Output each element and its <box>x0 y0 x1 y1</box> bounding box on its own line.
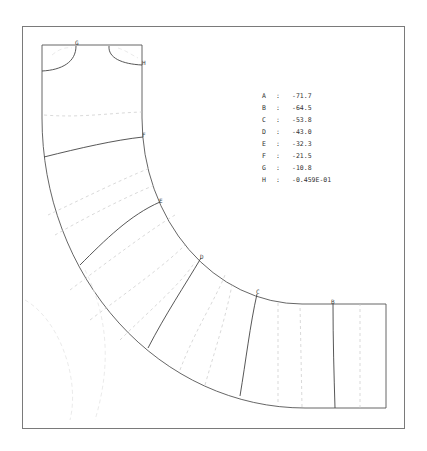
label-b: B <box>331 298 335 305</box>
legend-row: E:-32.3 <box>262 138 331 150</box>
contour-e <box>80 202 160 265</box>
legend-row: G:-10.8 <box>262 162 331 174</box>
legend-row: C:-53.8 <box>262 114 331 126</box>
legend-row: B:-64.5 <box>262 102 331 114</box>
legend-row: A:-71.7 <box>262 90 331 102</box>
contour-d <box>148 258 201 348</box>
label-e: E <box>159 197 163 204</box>
contour-plot: G H F E D C B <box>0 0 427 451</box>
legend-row: H:-0.459E-01 <box>262 174 331 186</box>
legend-row: F:-21.5 <box>262 150 331 162</box>
contour-legend: A:-71.7 B:-64.5 C:-53.8 D:-43.0 E:-32.3 … <box>262 90 331 186</box>
label-d: D <box>200 253 204 260</box>
contour-f <box>44 137 143 157</box>
plot-frame <box>23 27 405 429</box>
contour-c <box>240 294 257 396</box>
label-f: F <box>142 131 146 138</box>
label-c: C <box>256 288 260 295</box>
label-g: G <box>75 39 79 46</box>
contour-g <box>42 46 76 71</box>
legend-row: D:-43.0 <box>262 126 331 138</box>
contour-h <box>109 46 142 65</box>
contour-b <box>333 304 335 408</box>
label-h: H <box>142 59 146 66</box>
